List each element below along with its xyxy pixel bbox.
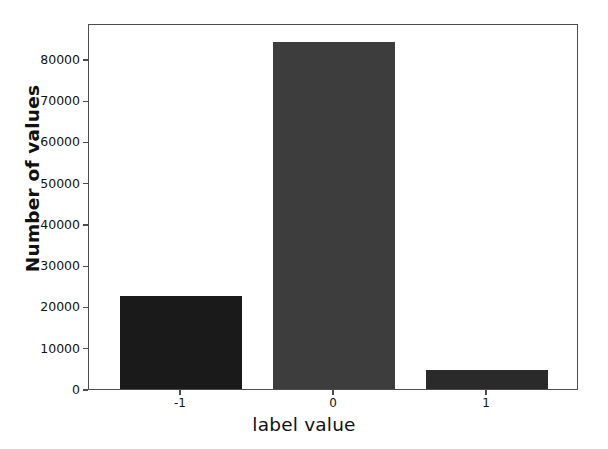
plot-area bbox=[88, 24, 578, 390]
y-tick-label-0: 0 bbox=[0, 382, 80, 397]
bars-layer bbox=[89, 25, 577, 389]
x-tick-label-zero: 0 bbox=[303, 396, 363, 410]
x-axis-title: label value bbox=[0, 414, 608, 435]
x-tick-mark-zero bbox=[332, 390, 333, 395]
x-tick-label-minus1: -1 bbox=[150, 396, 210, 410]
x-tick-mark-one bbox=[485, 390, 486, 395]
y-tick-label-40000: 40000 bbox=[0, 217, 80, 232]
y-tick-label-80000: 80000 bbox=[0, 52, 80, 67]
figure-canvas: Number of values label value 0 10000 200… bbox=[0, 0, 608, 449]
y-tick-label-50000: 50000 bbox=[0, 176, 80, 191]
bar-zero bbox=[273, 42, 396, 389]
bar-minus1 bbox=[120, 296, 243, 389]
x-tick-mark-minus1 bbox=[179, 390, 180, 395]
bar-one bbox=[426, 370, 549, 389]
x-tick-label-one: 1 bbox=[456, 396, 516, 410]
y-tick-label-60000: 60000 bbox=[0, 134, 80, 149]
y-tick-label-70000: 70000 bbox=[0, 93, 80, 108]
y-tick-label-20000: 20000 bbox=[0, 299, 80, 314]
y-tick-label-10000: 10000 bbox=[0, 341, 80, 356]
y-tick-label-30000: 30000 bbox=[0, 258, 80, 273]
